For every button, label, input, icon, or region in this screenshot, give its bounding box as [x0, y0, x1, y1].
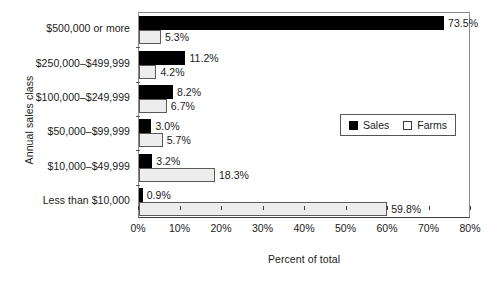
x-axis-tick — [263, 206, 264, 210]
y-axis-tick-label: Less than $10,000 — [8, 194, 130, 206]
y-axis-tick — [136, 185, 140, 186]
y-axis-tick-label: $100,000–$249,999 — [8, 91, 130, 103]
bar-sales-1 — [139, 51, 185, 65]
x-axis-tick-label: 60% — [376, 222, 397, 234]
x-axis-tick-label: 80% — [459, 222, 480, 234]
x-axis-tick-label: 70% — [418, 222, 439, 234]
x-axis-tick — [304, 206, 305, 210]
bar-farms-2 — [139, 99, 167, 113]
bar-sales-3 — [139, 119, 151, 133]
x-axis-tick — [346, 206, 347, 210]
x-axis-tick — [387, 206, 388, 210]
y-axis-tick-label: $250,000–$499,999 — [8, 57, 130, 69]
y-axis-tick-label: $50,000–$99,999 — [8, 125, 130, 137]
bar-value-label: 3.0% — [155, 119, 179, 133]
bar-value-label: 5.3% — [165, 30, 189, 44]
y-axis-tick-label: $10,000–$49,999 — [8, 160, 130, 172]
x-axis-tick — [429, 206, 430, 210]
legend-item-farms: Farms — [403, 119, 447, 131]
bar-value-label: 59.8% — [391, 202, 421, 216]
bar-value-label: 5.7% — [167, 133, 191, 147]
bar-farms-4 — [139, 168, 215, 182]
y-axis-tick-label: $500,000 or more — [8, 22, 130, 34]
bar-value-label: 11.2% — [189, 51, 218, 65]
bar-sales-2 — [139, 85, 173, 99]
bar-farms-3 — [139, 133, 163, 147]
legend-label-sales: Sales — [363, 119, 389, 131]
bar-farms-1 — [139, 65, 156, 79]
bar-value-label: 0.9% — [147, 188, 171, 202]
bar-value-label: 4.2% — [160, 65, 184, 79]
x-axis-tick-label: 0% — [130, 222, 145, 234]
x-axis-tick — [221, 206, 222, 210]
x-axis-tick — [470, 206, 471, 210]
open-square-icon — [403, 121, 412, 130]
x-axis-tick-label: 10% — [169, 222, 190, 234]
bar-value-label: 3.2% — [156, 154, 180, 168]
filled-square-icon — [349, 121, 358, 130]
x-axis-tick-label: 50% — [335, 222, 356, 234]
y-axis-tick — [136, 47, 140, 48]
bar-sales-5 — [139, 188, 143, 202]
bar-value-label: 18.3% — [219, 168, 249, 182]
bar-sales-4 — [139, 154, 152, 168]
x-axis-tick-label: 20% — [210, 222, 231, 234]
bar-value-label: 8.2% — [177, 85, 201, 99]
legend-item-sales: Sales — [349, 119, 389, 131]
x-axis-tick — [180, 206, 181, 210]
y-axis-tick — [136, 150, 140, 151]
grouped-bar-chart: Annual sales class $500,000 or more$250,… — [0, 0, 494, 281]
y-axis-tick-labels: $500,000 or more$250,000–$499,999$100,00… — [8, 12, 134, 217]
x-axis-tick-label: 30% — [252, 222, 273, 234]
legend-label-farms: Farms — [417, 119, 447, 131]
x-axis-title: Percent of total — [138, 253, 470, 265]
bar-farms-0 — [139, 30, 161, 44]
x-axis-tick — [138, 206, 139, 210]
chart-legend: Sales Farms — [340, 114, 456, 136]
y-axis-tick — [136, 82, 140, 83]
x-axis-tick-label: 40% — [293, 222, 314, 234]
bar-sales-0 — [139, 16, 444, 30]
y-axis-tick — [136, 116, 140, 117]
bar-value-label: 6.7% — [171, 99, 195, 113]
bar-value-label: 73.5% — [448, 16, 478, 30]
